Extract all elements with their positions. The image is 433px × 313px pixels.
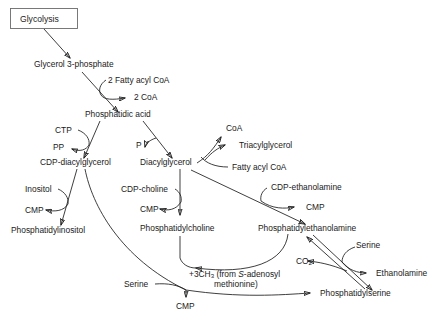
node-label-serine-right: Serine: [356, 240, 381, 250]
node-label-co2: CO2: [296, 256, 313, 266]
node-label-2-fatty-acyl-coa: 2 Fatty acyl CoA: [108, 75, 170, 85]
node-label-glycerol-3-phosphate: Glycerol 3-phosphate: [34, 59, 114, 69]
node-label-diacylglycerol: Diacylglycerol: [140, 157, 192, 167]
node-label-cdp-ethanolamine: CDP-ethanolamine: [271, 182, 342, 192]
node-label-coa: CoA: [226, 123, 243, 133]
pathway-canvas: Glycolysis Glycerol 3-phosphate 2 Fatty …: [0, 0, 433, 313]
node-label-phosphatidic-acid: Phosphatidic acid: [85, 109, 151, 119]
node-label-phosphatidylcholine: Phosphatidylcholine: [140, 223, 215, 233]
node-label-pp: PP: [53, 142, 65, 152]
curve-serine-right-in: [342, 247, 355, 262]
node-label-methyl-donor-line1: +3CH3 (from S-adenosyl: [189, 269, 280, 279]
node-label-fatty-acyl-coa: Fatty acyl CoA: [232, 162, 287, 172]
node-label-cmp-inositol: CMP: [25, 205, 44, 215]
arrow-to-inorganic-phosphate: [145, 138, 156, 147]
arrow-to-phosphatidylserine: [186, 290, 310, 295]
node-label-phosphatidylserine: Phosphatidylserine: [320, 288, 391, 298]
node-label-phosphatidylinositol: Phosphatidylinositol: [11, 225, 85, 235]
node-label-ctp: CTP: [55, 125, 72, 135]
node-label-cmp-ethanolamine: CMP: [306, 202, 325, 212]
curve-fatty-acyl-coa-in: [201, 157, 228, 167]
curve-inositol-in: [58, 189, 68, 204]
curve-cdp-ethanolamine-in: [261, 188, 267, 201]
arrow-phosphatidic-acid-to-cdp-diacylglycerol: [84, 121, 100, 158]
curve-methylation-to-phosphatidylcholine: [196, 234, 288, 270]
node-label-triacylglycerol: Triacylglycerol: [239, 140, 292, 150]
arrow-to-pp: [72, 145, 89, 150]
pathway-diagram: Glycolysis Glycerol 3-phosphate 2 Fatty …: [0, 0, 433, 313]
arrow-diacylglycerol-to-triacylglycerol: [205, 145, 225, 160]
curve-ctp-in: [78, 130, 89, 145]
arrow-glycolysis-to-glycerol3p: [44, 29, 70, 58]
arrow-to-co2: [308, 261, 347, 271]
curve-serine-bottom-in: [155, 284, 186, 290]
node-label-2-coa: 2 CoA: [134, 92, 158, 102]
node-label-glycolysis: Glycolysis: [20, 14, 59, 24]
node-label-cdp-diacylglycerol: CDP-diacylglycerol: [40, 157, 111, 167]
arrow-diacylglycerol-to-phosphatidylethanolamine: [191, 170, 305, 224]
node-label-inorganic-phosphate: P: [136, 140, 142, 150]
node-label-inositol: Inositol: [25, 184, 52, 194]
arrow-to-cmp-inositol: [46, 204, 68, 211]
node-label-phosphatidylethanolamine: Phosphatidylethanolamine: [258, 223, 357, 233]
arrow-cdp-diacylglycerol-to-phosphatidylinositol: [61, 169, 77, 225]
node-label-cmp-choline: CMP: [140, 204, 159, 214]
arrow-to-cmp-choline: [160, 202, 181, 210]
arrow-diacylglycerol-to-coa: [197, 137, 221, 163]
arrow-to-cmp-ethanolamine: [261, 201, 294, 208]
node-label-serine-bottom: Serine: [124, 279, 149, 289]
node-label-cmp-serine: CMP: [176, 301, 195, 311]
node-label-ethanolamine: Ethanolamine: [376, 268, 428, 278]
node-label-cdp-choline: CDP-choline: [121, 184, 168, 194]
node-label-methyl-donor-line2: methionine): [214, 279, 258, 289]
curve-phosphatidylcholine-join: [180, 258, 196, 268]
arrow-phosphatidic-acid-to-diacylglycerol: [143, 121, 172, 158]
